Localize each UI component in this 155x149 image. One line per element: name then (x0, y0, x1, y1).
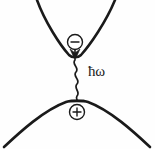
photon-wave-line (74, 60, 78, 100)
hole-marker (70, 105, 85, 120)
photon-energy-label: ħω (88, 64, 105, 79)
electron-marker (68, 35, 83, 50)
band-diagram-canvas (0, 0, 155, 149)
band-diagram-figure: ħω (0, 0, 155, 149)
